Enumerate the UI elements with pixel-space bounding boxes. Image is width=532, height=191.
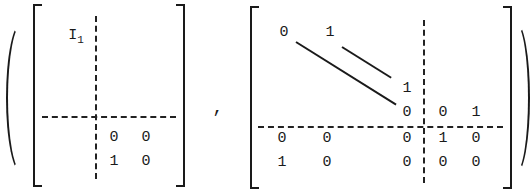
matrix-b-cell: 0 — [471, 131, 480, 146]
matrix-b-vertical-partition — [423, 20, 425, 183]
matrix-a-vertical-partition — [95, 16, 97, 179]
matrix-b-cell: 0 — [471, 155, 480, 170]
matrix-b-cell: 1 — [438, 131, 447, 146]
matrix-a-right-bracket — [176, 4, 185, 187]
matrix-a-cell: 0 — [109, 130, 118, 145]
shift-block-start-zero: 0 — [279, 25, 288, 40]
matrix-b-cell: 0 — [438, 155, 447, 170]
matrix-b-cell: 1 — [471, 105, 480, 120]
matrix-b-cell: 0 — [322, 131, 331, 146]
matrix-a-cell: 0 — [141, 130, 150, 145]
matrix-b-cell: 0 — [277, 131, 286, 146]
matrix-b-left-bracket — [250, 6, 259, 189]
matrix-a-horizontal-partition — [42, 116, 176, 118]
matrix-a-left-bracket — [33, 4, 42, 187]
matrix-b-cell: 0 — [402, 155, 411, 170]
matrix-b-cell: 1 — [277, 155, 286, 170]
matrix-b-horizontal-partition — [258, 126, 503, 128]
matrix-b-right-bracket — [503, 6, 512, 189]
matrix-a-cell: 0 — [141, 154, 150, 169]
matrix-b-cell: 0 — [402, 131, 411, 146]
matrix-a-cell: 1 — [109, 154, 118, 169]
comma-separator: , — [213, 101, 224, 116]
shift-block-end-zero: 0 — [402, 105, 411, 120]
shift-block-end-one: 1 — [402, 81, 411, 96]
matrix-b-cell: 0 — [322, 155, 331, 170]
shift-block-start-one: 1 — [325, 25, 334, 40]
identity-block-label: I1 — [68, 28, 84, 44]
matrix-b-cell: 0 — [438, 105, 447, 120]
